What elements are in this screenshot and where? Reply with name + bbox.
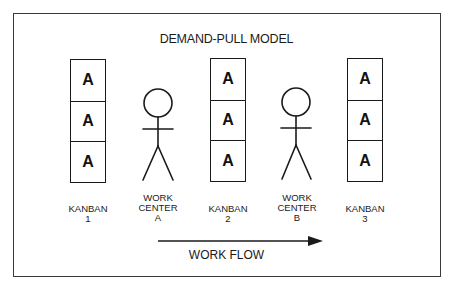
stick-figure-icon: [281, 88, 311, 179]
kanban-2-label: KANBAN 2: [188, 204, 268, 224]
kanban-3-label: KANBAN 3: [325, 204, 405, 224]
work-center-a-label: WORK CENTER A: [118, 193, 198, 223]
work-flow-label: WORK FLOW: [0, 248, 453, 262]
stick-figure-icon: [143, 89, 173, 180]
kanban-1-label: KANBAN 1: [48, 204, 128, 224]
arrow-right-icon: [158, 236, 323, 246]
